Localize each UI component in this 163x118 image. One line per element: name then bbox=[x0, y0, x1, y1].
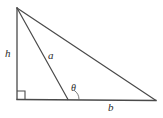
triangle-diagram-svg bbox=[0, 0, 163, 118]
label-cevian-a: a bbox=[48, 50, 54, 61]
right-angle-marker bbox=[17, 91, 25, 100]
geometry-figure: h a θ b bbox=[0, 0, 163, 118]
cevian-line bbox=[17, 8, 68, 100]
label-height-h: h bbox=[5, 48, 11, 59]
base-leg-line bbox=[17, 100, 156, 101]
hypotenuse-line bbox=[17, 8, 156, 101]
label-angle-theta: θ bbox=[71, 82, 76, 93]
label-base-b: b bbox=[108, 102, 114, 113]
